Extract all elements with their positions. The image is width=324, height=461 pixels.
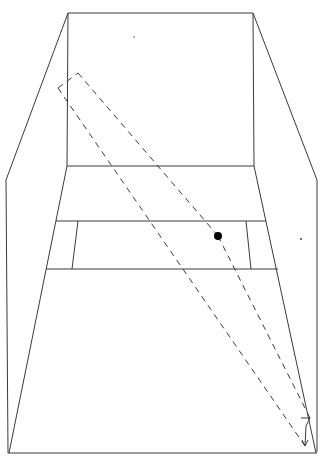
floor-left-edge — [9, 166, 67, 453]
outer-right-edge — [253, 13, 317, 452]
dashed-rectangle — [58, 73, 310, 446]
floor-inner-right — [246, 221, 251, 269]
dot-marker — [214, 232, 222, 240]
back-wall — [67, 13, 254, 166]
floor-inner-left — [72, 221, 78, 269]
speck — [300, 238, 302, 240]
speck — [133, 36, 135, 38]
diagram-canvas — [0, 0, 324, 461]
floor-right-edge — [254, 166, 316, 453]
outer-left-edge — [6, 13, 68, 453]
